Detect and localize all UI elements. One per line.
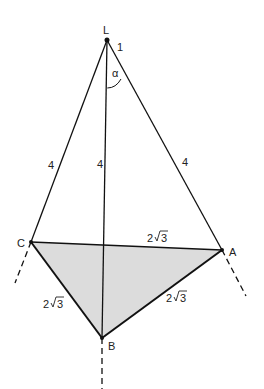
label-LA: 4 [182,156,188,168]
label-B: B [108,340,115,352]
label-CA: 2 3 [147,231,168,244]
vertex-C [29,240,33,244]
label-A: A [229,246,237,258]
label-LC: 4 [48,159,54,171]
edge-LC [31,40,107,242]
angle-alpha: α [112,67,119,79]
label-CB: 2 3 [43,297,64,310]
vertex-L [105,38,110,43]
base-triangle-fill [31,242,222,338]
svg-text:3: 3 [57,298,63,310]
svg-text:3: 3 [161,232,167,244]
vertex-B [100,336,104,340]
svg-text:2: 2 [166,292,172,304]
unit-mark: 1 [117,41,123,53]
edge-LA [107,40,222,250]
vertex-A [220,248,224,252]
angle-arc [107,79,121,88]
svg-text:2: 2 [147,232,153,244]
svg-text:3: 3 [180,292,186,304]
label-C: C [17,237,25,249]
svg-text:2: 2 [43,298,49,310]
label-L: L [103,24,109,36]
tetrahedron-diagram: L C A B 1 α 4 4 4 2 3 2 3 2 3 [0,0,264,389]
label-BA: 2 3 [166,291,187,304]
label-LB: 4 [97,158,103,170]
